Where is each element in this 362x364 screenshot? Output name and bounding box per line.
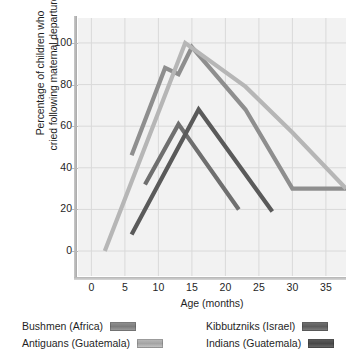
legend-label: Kibbutzniks (Israel) (206, 320, 295, 332)
x-tick-label: 30 (279, 281, 305, 293)
x-axis-line (74, 277, 346, 280)
x-axis-title: Age (months) (78, 297, 346, 309)
x-tick-label: 10 (145, 281, 171, 293)
legend-label: Indians (Guatemala) (206, 337, 301, 349)
x-tick-label: 5 (112, 281, 138, 293)
legend-label: Antiguans (Guatemala) (22, 337, 130, 349)
y-axis-tick-labels: 020406080100 (40, 0, 72, 364)
y-tick-mark (72, 168, 78, 169)
legend-item: Bushmen (Africa) (22, 318, 136, 334)
x-tick-label: 25 (246, 281, 272, 293)
y-tick-mark (72, 85, 78, 86)
y-tick-label: 100 (42, 36, 72, 48)
x-tick-label: 0 (78, 281, 104, 293)
x-tick-label: 20 (212, 281, 238, 293)
legend-item: Indians (Guatemala) (206, 335, 334, 351)
y-tick-label: 40 (42, 161, 72, 173)
legend-label: Bushmen (Africa) (22, 320, 103, 332)
y-tick-label: 80 (42, 78, 72, 90)
y-tick-label: 20 (42, 202, 72, 214)
x-tick-label: 35 (313, 281, 339, 293)
plot-svg (78, 18, 346, 276)
y-tick-mark (72, 251, 78, 252)
line-chart-figure: Percentage of children who cried followi… (0, 0, 362, 364)
legend-color-swatch (110, 322, 136, 331)
chart-legend: Bushmen (Africa)Antiguans (Guatemala)Kib… (0, 318, 362, 358)
y-tick-mark (72, 43, 78, 44)
y-tick-mark (72, 209, 78, 210)
legend-color-swatch (137, 339, 163, 348)
y-tick-mark (72, 126, 78, 127)
y-axis-line (74, 16, 77, 280)
legend-item: Antiguans (Guatemala) (22, 335, 163, 351)
legend-color-swatch (302, 322, 328, 331)
x-tick-label: 15 (179, 281, 205, 293)
y-tick-label: 0 (42, 244, 72, 256)
legend-item: Kibbutzniks (Israel) (206, 318, 328, 334)
legend-color-swatch (308, 339, 334, 348)
plot-area (78, 18, 346, 276)
y-tick-label: 60 (42, 119, 72, 131)
